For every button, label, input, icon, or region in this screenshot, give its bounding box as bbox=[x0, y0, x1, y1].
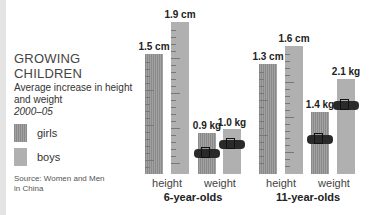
buckle-icon bbox=[314, 133, 323, 144]
ruler-tick bbox=[171, 37, 176, 38]
ruler-tick bbox=[285, 82, 294, 83]
bar-6yo-girls-height bbox=[145, 54, 163, 174]
buckle-icon bbox=[201, 147, 210, 158]
ruler-ticks bbox=[171, 22, 189, 174]
ruler-ticks bbox=[145, 54, 163, 174]
ruler-tick bbox=[259, 156, 264, 157]
ruler-tick bbox=[285, 54, 290, 55]
bar-6yo-boys-weight bbox=[223, 129, 241, 174]
value-label: 1.4 kg bbox=[306, 99, 334, 110]
ruler-tick bbox=[285, 138, 290, 139]
ruler-tick bbox=[145, 76, 150, 77]
ruler-tick bbox=[259, 72, 264, 73]
ruler-tick bbox=[285, 124, 290, 125]
ruler-tick bbox=[285, 75, 290, 76]
ruler-tick bbox=[259, 163, 264, 164]
ruler-tick bbox=[285, 96, 290, 97]
bar-11yo-boys-height bbox=[285, 46, 303, 174]
group-label-11yo: 11-year-olds bbox=[276, 191, 340, 203]
source-note: Source: Women and Men in China bbox=[14, 174, 109, 194]
ruler-tick bbox=[145, 90, 154, 91]
ruler-tick bbox=[145, 111, 150, 112]
ruler-tick bbox=[145, 118, 150, 119]
ruler-tick bbox=[285, 117, 294, 118]
value-label: 1.5 cm bbox=[138, 41, 169, 52]
ruler-tick bbox=[259, 121, 264, 122]
ruler-tick bbox=[145, 167, 150, 168]
left-edge-strip bbox=[0, 0, 6, 215]
ruler-tick bbox=[285, 89, 290, 90]
ruler-tick bbox=[145, 160, 154, 161]
ruler-tick bbox=[259, 149, 264, 150]
buckle-icon bbox=[340, 99, 349, 110]
value-label: 1.9 cm bbox=[164, 9, 195, 20]
ruler-ticks bbox=[259, 64, 277, 174]
belt-icon bbox=[194, 149, 220, 158]
group-label-6yo: 6-year-olds bbox=[164, 191, 223, 203]
x-label-height: height bbox=[266, 177, 296, 189]
ruler-tick bbox=[285, 103, 290, 104]
girls-swatch-icon bbox=[14, 124, 27, 142]
ruler-tick bbox=[145, 104, 150, 105]
ruler-tick bbox=[171, 135, 176, 136]
ruler-tick bbox=[145, 97, 150, 98]
ruler-tick bbox=[259, 107, 264, 108]
ruler-tick bbox=[285, 166, 290, 167]
buckle-icon bbox=[226, 138, 235, 149]
ruler-tick bbox=[285, 61, 290, 62]
belt-icon bbox=[219, 140, 245, 149]
value-label: 1.0 kg bbox=[218, 117, 246, 128]
chart-subtitle: Average increase in height and weight bbox=[14, 82, 139, 106]
ruler-tick bbox=[259, 128, 264, 129]
ruler-tick bbox=[171, 107, 176, 108]
ruler-tick bbox=[145, 62, 150, 63]
ruler-tick bbox=[171, 65, 176, 66]
value-label: 1.3 cm bbox=[252, 51, 283, 62]
ruler-tick bbox=[171, 128, 180, 129]
ruler-tick bbox=[171, 114, 176, 115]
ruler-tick bbox=[145, 153, 150, 154]
legend-item-boys: boys bbox=[14, 148, 139, 166]
ruler-tick bbox=[145, 83, 150, 84]
legend-panel: GROWING CHILDREN Average increase in hei… bbox=[14, 51, 139, 194]
legend-label: boys bbox=[37, 151, 60, 163]
ruler-tick bbox=[259, 100, 268, 101]
chart-title: GROWING CHILDREN bbox=[14, 51, 139, 81]
x-label-weight: weight bbox=[318, 177, 350, 189]
ruler-tick bbox=[171, 100, 176, 101]
ruler-tick bbox=[171, 93, 180, 94]
ruler-tick bbox=[145, 139, 150, 140]
ruler-tick bbox=[171, 51, 176, 52]
bar-6yo-girls-weight bbox=[198, 133, 216, 174]
x-label-weight: weight bbox=[204, 177, 236, 189]
ruler-tick bbox=[171, 86, 176, 87]
ruler-tick bbox=[171, 142, 176, 143]
ruler-tick bbox=[171, 156, 176, 157]
ruler-tick bbox=[285, 110, 290, 111]
ruler-tick bbox=[259, 79, 264, 80]
ruler-tick bbox=[285, 159, 290, 160]
ruler-tick bbox=[145, 146, 150, 147]
belt-icon bbox=[307, 135, 333, 144]
ruler-tick bbox=[171, 79, 176, 80]
x-label-height: height bbox=[152, 177, 182, 189]
ruler-tick bbox=[259, 135, 268, 136]
ruler-ticks bbox=[285, 46, 303, 174]
ruler-tick bbox=[171, 149, 176, 150]
value-label: 2.1 kg bbox=[332, 66, 360, 77]
bar-11yo-girls-height bbox=[259, 64, 277, 174]
ruler-tick bbox=[259, 93, 264, 94]
ruler-tick bbox=[259, 114, 264, 115]
bar-6yo-boys-height bbox=[171, 22, 189, 174]
bar-11yo-girls-weight bbox=[311, 112, 329, 174]
ruler-tick bbox=[285, 131, 290, 132]
ruler-tick bbox=[145, 125, 154, 126]
ruler-tick bbox=[171, 121, 176, 122]
ruler-tick bbox=[171, 58, 180, 59]
ruler-tick bbox=[285, 68, 290, 69]
ruler-tick bbox=[171, 44, 176, 45]
legend-label: girls bbox=[37, 127, 57, 139]
boys-swatch-icon bbox=[14, 148, 27, 166]
ruler-tick bbox=[285, 145, 290, 146]
legend-item-girls: girls bbox=[14, 124, 139, 142]
